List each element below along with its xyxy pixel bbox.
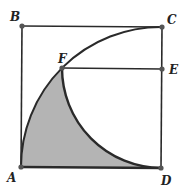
segment-cd — [161, 27, 162, 168]
point-a — [18, 164, 23, 169]
shaded-region — [21, 68, 161, 168]
segment-fe — [62, 68, 162, 69]
point-c — [159, 24, 164, 29]
point-d — [158, 165, 163, 170]
label-a: A — [6, 171, 16, 185]
segment-bc — [22, 26, 162, 27]
label-f: F — [57, 52, 68, 66]
label-b: B — [9, 10, 20, 24]
point-b — [19, 23, 24, 28]
point-f — [59, 65, 64, 70]
label-e: E — [168, 63, 179, 77]
label-c: C — [167, 13, 177, 27]
geometry-diagram: A B C D E F — [0, 0, 186, 192]
point-e — [159, 66, 164, 71]
segment-ad — [21, 167, 161, 168]
label-d: D — [160, 174, 172, 188]
